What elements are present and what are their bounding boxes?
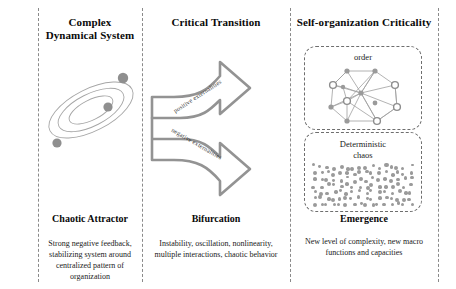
arrow-lower-negative <box>152 118 250 195</box>
chaos-dot <box>377 171 381 175</box>
order-box-label: order <box>305 52 421 62</box>
chaos-dot <box>332 183 335 186</box>
chaos-dot <box>346 176 349 179</box>
chaos-dot <box>391 203 394 206</box>
chaos-dot <box>349 197 352 200</box>
chaos-dot <box>357 195 361 199</box>
chaos-dot <box>313 203 317 207</box>
attractor-ellipse-outer <box>40 70 141 149</box>
chaos-dot <box>371 176 374 179</box>
chaos-dot-field <box>311 163 415 207</box>
chaos-dot <box>339 189 342 192</box>
chaos-dot <box>340 185 344 189</box>
column-header-3: Self-organization Criticality <box>290 16 438 29</box>
chaos-dot <box>383 177 387 181</box>
chaos-dot <box>385 196 389 200</box>
chaos-dot <box>333 203 336 206</box>
chaos-dot <box>391 185 395 189</box>
chaos-dot <box>312 163 315 166</box>
chaos-dot <box>313 177 317 181</box>
chaos-dot <box>411 164 414 167</box>
column-header-1-line2: Dynamical System <box>38 29 142 42</box>
chaos-dot <box>378 190 382 194</box>
chaos-dot <box>332 179 335 182</box>
column-critical-transition: Critical Transition positive externaliti… <box>142 0 290 289</box>
chaos-dot <box>350 186 353 189</box>
split-arrows-svg <box>146 52 286 187</box>
order-network-nodes <box>328 68 400 124</box>
chaos-dot <box>409 183 413 187</box>
attractor-ellipse-middle <box>52 79 131 140</box>
chaos-dot <box>402 198 406 202</box>
order-box: order <box>304 46 422 130</box>
chaos-dot <box>404 191 407 194</box>
column-complex-dynamical-system: Complex Dynamical System Chaotic Attract… <box>38 0 142 289</box>
chaos-box-label-line2: chaos <box>305 150 421 160</box>
chaos-dot <box>378 167 382 171</box>
chaos-dot <box>382 203 386 207</box>
caption-body-2: Instability, oscillation, nonlinearity, … <box>142 238 290 260</box>
chaos-dot <box>343 203 347 207</box>
chaos-dot <box>321 171 324 174</box>
chaos-dot <box>320 186 323 189</box>
chaos-dot <box>325 166 328 169</box>
chaos-dot <box>327 182 331 186</box>
caption-body-1: Strong negative feedback, stabilizing sy… <box>38 238 142 282</box>
column-header-2: Critical Transition <box>142 16 290 29</box>
column-header-3-line1: Self-organization Criticality <box>290 16 438 29</box>
attractor-node-middle-right <box>103 102 112 111</box>
chaos-dot <box>338 197 341 200</box>
chaos-dot <box>338 171 342 175</box>
chaos-dot <box>404 176 407 179</box>
chaos-dot <box>378 196 382 200</box>
chaos-dot <box>311 186 315 190</box>
chaos-dot <box>401 173 404 176</box>
chaos-dot <box>359 177 363 181</box>
chaos-dot <box>402 186 405 189</box>
chaos-dot <box>372 164 375 167</box>
chaos-dot <box>397 201 401 205</box>
chaos-dot <box>314 196 317 199</box>
attractor-svg <box>36 55 146 165</box>
attractor-node-lower-left <box>52 138 61 147</box>
chaos-box: Deterministic chaos <box>304 132 422 212</box>
chaos-dot <box>369 198 372 201</box>
chaos-dot <box>396 182 400 186</box>
chaos-dot <box>313 171 317 175</box>
chaos-dot <box>411 203 414 206</box>
chaos-dot <box>398 189 402 193</box>
chaos-dot <box>331 198 335 202</box>
chaos-dot <box>369 183 373 187</box>
chaos-dot <box>340 179 344 183</box>
chaos-dot <box>384 185 387 188</box>
chaos-dot <box>364 180 368 184</box>
chaos-dot <box>410 176 413 179</box>
chaos-dot <box>389 179 393 183</box>
chaos-dot <box>324 203 327 206</box>
chaos-dot <box>332 167 336 171</box>
chaos-dot <box>369 171 373 175</box>
chaos-dot <box>401 203 404 206</box>
chaos-dot <box>396 170 400 174</box>
chaos-dot <box>324 178 328 182</box>
chaos-dot <box>390 197 393 200</box>
chaos-dot <box>363 203 367 207</box>
chaos-dot <box>390 165 393 168</box>
chaos-dot <box>345 171 349 175</box>
order-network-svg <box>313 63 413 127</box>
caption-title-1: Chaotic Attractor <box>38 213 142 225</box>
chaos-dot <box>366 192 369 195</box>
chaos-dot <box>340 165 344 169</box>
chaos-dot <box>376 178 380 182</box>
chaos-dot <box>375 203 378 206</box>
divider-right <box>438 8 439 282</box>
chaos-dot <box>357 170 361 174</box>
chaos-dot <box>331 173 335 177</box>
caption-title-2: Bifurcation <box>142 213 290 225</box>
chaos-dot <box>378 185 382 189</box>
column-header-1: Complex Dynamical System <box>38 16 142 42</box>
column-header-1-line1: Complex <box>38 16 142 29</box>
chaos-dot <box>391 192 394 195</box>
chaotic-attractor-figure <box>36 55 146 165</box>
chaos-dot <box>327 170 331 174</box>
